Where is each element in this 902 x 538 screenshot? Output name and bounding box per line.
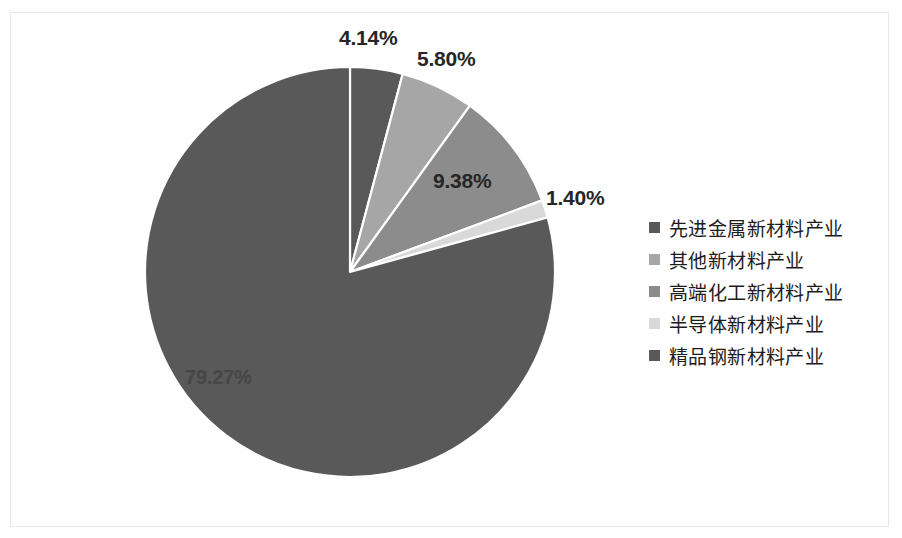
legend-item-2[interactable]: 高端化工新材料产业 xyxy=(649,276,884,307)
pie-slice-group xyxy=(145,67,555,477)
legend-swatch-icon-2 xyxy=(649,286,660,297)
legend-swatch-icon-4 xyxy=(649,350,660,361)
legend-label-4: 精品钢新材料产业 xyxy=(669,342,824,369)
legend-label-1: 其他新材料产业 xyxy=(669,246,805,273)
pie-slice-label-2: 9.38% xyxy=(433,169,492,193)
legend-item-4[interactable]: 精品钢新材料产业 xyxy=(649,340,884,371)
pie-slice-label-0: 4.14% xyxy=(339,26,398,50)
legend-label-2: 高端化工新材料产业 xyxy=(669,278,844,305)
legend-swatch-icon-0 xyxy=(649,222,660,233)
legend-item-0[interactable]: 先进金属新材料产业 xyxy=(649,212,884,243)
legend-label-0: 先进金属新材料产业 xyxy=(669,214,844,241)
legend-item-1[interactable]: 其他新材料产业 xyxy=(649,244,884,275)
chart-canvas: 4.14% 5.80% 9.38% 1.40% 79.27% 先进金属新材料产业… xyxy=(0,0,902,538)
pie-slice-label-1: 5.80% xyxy=(417,47,476,71)
legend-label-3: 半导体新材料产业 xyxy=(669,310,824,337)
legend-swatch-icon-3 xyxy=(649,318,660,329)
legend-item-3[interactable]: 半导体新材料产业 xyxy=(649,308,884,339)
chart-legend: 先进金属新材料产业 其他新材料产业 高端化工新材料产业 半导体新材料产业 精品钢… xyxy=(649,212,884,372)
legend-swatch-icon-1 xyxy=(649,254,660,265)
pie-slice-label-4: 79.27% xyxy=(185,366,252,389)
pie-slice-label-3: 1.40% xyxy=(546,186,605,210)
